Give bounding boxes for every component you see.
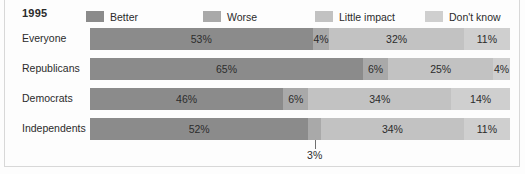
bar-segment-don-t-know[interactable]: 11%	[464, 28, 510, 50]
bar-segment-better[interactable]: 65%	[90, 58, 363, 80]
segment-value-label: 32%	[386, 34, 407, 45]
bar-segment-little-impact[interactable]: 25%	[388, 58, 493, 80]
row-label-independents: Independents	[22, 122, 86, 134]
legend-item-little-impact[interactable]: Little impact	[315, 7, 395, 21]
bar-segment-little-impact[interactable]: 34%	[321, 118, 464, 140]
segment-value-label: 34%	[369, 94, 390, 105]
bar-segment-worse[interactable]: 6%	[283, 88, 308, 110]
legend-swatch-icon	[203, 11, 221, 22]
bar-segment-better[interactable]: 53%	[90, 28, 313, 50]
segment-value-label: 52%	[189, 124, 210, 135]
segment-value-label: 34%	[382, 124, 403, 135]
bar-track: 52%3%34%11%	[90, 118, 510, 140]
legend-item-worse[interactable]: Worse	[203, 7, 257, 21]
segment-value-label: 65%	[216, 64, 237, 75]
row-label-everyone: Everyone	[22, 32, 66, 44]
bar-row: Democrats46%6%34%14%	[0, 88, 525, 110]
annotation-label: 3%	[307, 149, 322, 161]
segment-value-label: 53%	[191, 34, 212, 45]
legend-item-label: Better	[110, 11, 138, 23]
legend-swatch-icon	[86, 11, 104, 22]
bar-segment-better[interactable]: 46%	[90, 88, 283, 110]
legend-item-label: Worse	[227, 11, 257, 23]
row-label-democrats: Democrats	[22, 92, 73, 104]
legend-swatch-icon	[425, 11, 443, 22]
segment-value-label: 6%	[368, 64, 383, 75]
bar-row: Independents52%3%34%11%	[0, 118, 525, 140]
stacked-bar-chart: 1995 BetterWorseLittle impactDon't know …	[0, 0, 525, 174]
bar-row: Republicans65%6%25%4%	[0, 58, 525, 80]
segment-value-label: 4%	[494, 64, 509, 75]
bar-track: 46%6%34%14%	[90, 88, 510, 110]
legend-item-better[interactable]: Better	[86, 7, 138, 21]
bar-segment-little-impact[interactable]: 32%	[329, 28, 463, 50]
bar-segment-don-t-know[interactable]: 4%	[493, 58, 510, 80]
row-label-republicans: Republicans	[22, 62, 80, 74]
legend-item-don-t-know[interactable]: Don't know	[425, 7, 501, 21]
bar-segment-don-t-know[interactable]: 11%	[464, 118, 510, 140]
bar-segment-worse[interactable]: 3%	[308, 118, 321, 140]
segment-value-label: 11%	[477, 34, 497, 45]
leader-line	[315, 140, 316, 149]
chart-header: 1995 BetterWorseLittle impactDon't know	[0, 6, 525, 24]
bar-track: 53%4%32%11%	[90, 28, 510, 50]
legend-swatch-icon	[315, 11, 333, 22]
bar-segment-don-t-know[interactable]: 14%	[451, 88, 510, 110]
page-title: 1995	[22, 7, 47, 19]
bar-segment-worse[interactable]: 6%	[363, 58, 388, 80]
segment-value-label: 25%	[430, 64, 451, 75]
legend-item-label: Don't know	[449, 11, 501, 23]
segment-value-label: 11%	[477, 124, 497, 135]
bar-segment-little-impact[interactable]: 34%	[308, 88, 451, 110]
segment-value-label: 6%	[288, 94, 303, 105]
bar-segment-better[interactable]: 52%	[90, 118, 308, 140]
plot-area: Everyone53%4%32%11%Republicans65%6%25%4%…	[0, 28, 525, 153]
bar-segment-worse[interactable]: 4%	[313, 28, 330, 50]
legend-item-label: Little impact	[339, 11, 395, 23]
segment-value-label: 14%	[470, 94, 491, 105]
segment-value-label: 4%	[313, 34, 328, 45]
bar-row: Everyone53%4%32%11%	[0, 28, 525, 50]
bar-track: 65%6%25%4%	[90, 58, 510, 80]
segment-value-label: 46%	[176, 94, 197, 105]
